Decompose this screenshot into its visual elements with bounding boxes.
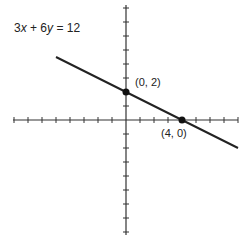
equation-part: = 12 [53, 21, 80, 35]
equation-part: + 6 [27, 21, 47, 35]
coordinate-plane [0, 0, 246, 251]
equation-line [56, 57, 238, 148]
equation-part: 3 [14, 21, 21, 35]
intercept-point [123, 89, 130, 96]
point-label-x-intercept: (4, 0) [161, 127, 187, 139]
equation-label: 3x + 6y = 12 [14, 21, 80, 35]
intercept-point [179, 117, 186, 124]
point-label-y-intercept: (0, 2) [135, 76, 161, 88]
